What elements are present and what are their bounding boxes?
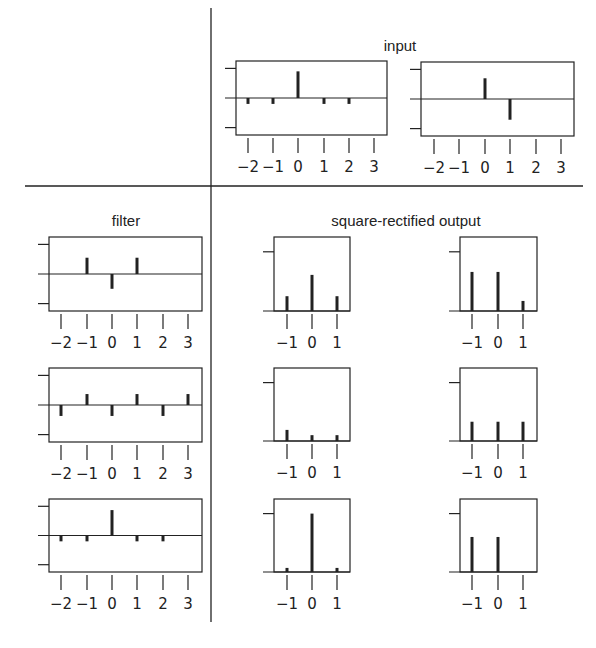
x-tick-label: −1 xyxy=(276,334,298,352)
x-tick-label: 0 xyxy=(107,595,117,613)
x-tick-label: 0 xyxy=(493,595,503,613)
output-2-1-plot: −101 xyxy=(263,368,350,482)
x-tick-label: −2 xyxy=(423,159,445,177)
figure-canvas: −2−10123−2−10123−2−10123−2−10123−2−10123… xyxy=(0,0,596,648)
output-3-2-plot: −101 xyxy=(449,499,537,613)
x-tick-label: −1 xyxy=(461,595,483,613)
x-tick-label: 2 xyxy=(531,159,541,177)
x-tick-label: 3 xyxy=(369,158,379,176)
x-tick-label: 0 xyxy=(307,334,317,352)
x-tick-label: −1 xyxy=(461,334,483,352)
x-tick-label: 2 xyxy=(158,334,168,352)
x-tick-label: 1 xyxy=(505,159,515,177)
x-tick-label: 0 xyxy=(493,464,503,482)
x-tick-label: 3 xyxy=(183,465,193,483)
x-tick-label: 1 xyxy=(319,158,329,176)
x-tick-label: −1 xyxy=(461,464,483,482)
x-tick-label: −1 xyxy=(76,334,98,352)
input-1-plot: −2−10123 xyxy=(225,61,387,176)
x-tick-label: −1 xyxy=(276,464,298,482)
x-tick-label: −1 xyxy=(448,159,470,177)
x-tick-label: 1 xyxy=(132,465,142,483)
output-1-1-plot: −101 xyxy=(263,237,350,352)
x-tick-label: 1 xyxy=(518,464,528,482)
x-tick-label: 2 xyxy=(158,465,168,483)
filter-2-plot: −2−10123 xyxy=(38,368,202,483)
x-tick-label: 3 xyxy=(556,159,566,177)
x-tick-label: −2 xyxy=(50,465,72,483)
filter-3-plot: −2−10123 xyxy=(38,499,202,613)
x-tick-label: 1 xyxy=(332,464,342,482)
x-tick-label: 0 xyxy=(307,464,317,482)
x-tick-label: 0 xyxy=(307,595,317,613)
x-tick-label: −1 xyxy=(76,595,98,613)
input-2-plot: −2−10123 xyxy=(410,62,574,177)
x-tick-label: 0 xyxy=(293,158,303,176)
plot-frame xyxy=(274,368,350,441)
x-tick-label: 1 xyxy=(518,595,528,613)
x-tick-label: 1 xyxy=(132,595,142,613)
x-tick-label: 3 xyxy=(183,334,193,352)
x-tick-label: 1 xyxy=(332,595,342,613)
x-tick-label: 0 xyxy=(107,334,117,352)
x-tick-label: −1 xyxy=(262,158,284,176)
x-tick-label: 1 xyxy=(518,334,528,352)
output-2-2-plot: −101 xyxy=(449,368,537,482)
x-tick-label: 0 xyxy=(493,334,503,352)
x-tick-label: −2 xyxy=(50,334,72,352)
x-tick-label: 2 xyxy=(344,158,354,176)
x-tick-label: −2 xyxy=(50,595,72,613)
x-tick-label: −1 xyxy=(276,595,298,613)
x-tick-label: −2 xyxy=(237,158,259,176)
output-3-1-plot: −101 xyxy=(263,499,350,613)
x-tick-label: 1 xyxy=(132,334,142,352)
x-tick-label: 3 xyxy=(183,595,193,613)
filter-1-plot: −2−10123 xyxy=(38,237,202,352)
x-tick-label: 0 xyxy=(480,159,490,177)
x-tick-label: 1 xyxy=(332,334,342,352)
x-tick-label: −1 xyxy=(76,465,98,483)
output-1-2-plot: −101 xyxy=(449,237,537,352)
x-tick-label: 2 xyxy=(158,595,168,613)
x-tick-label: 0 xyxy=(107,465,117,483)
